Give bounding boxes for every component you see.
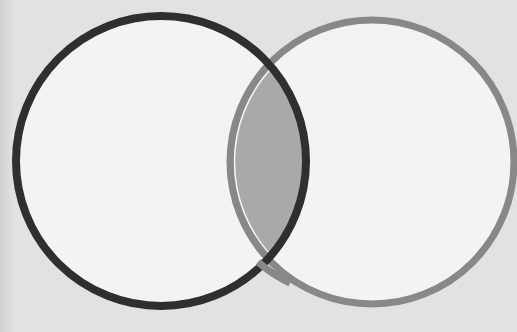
venn-svg <box>0 0 517 332</box>
venn-diagram <box>0 0 517 332</box>
